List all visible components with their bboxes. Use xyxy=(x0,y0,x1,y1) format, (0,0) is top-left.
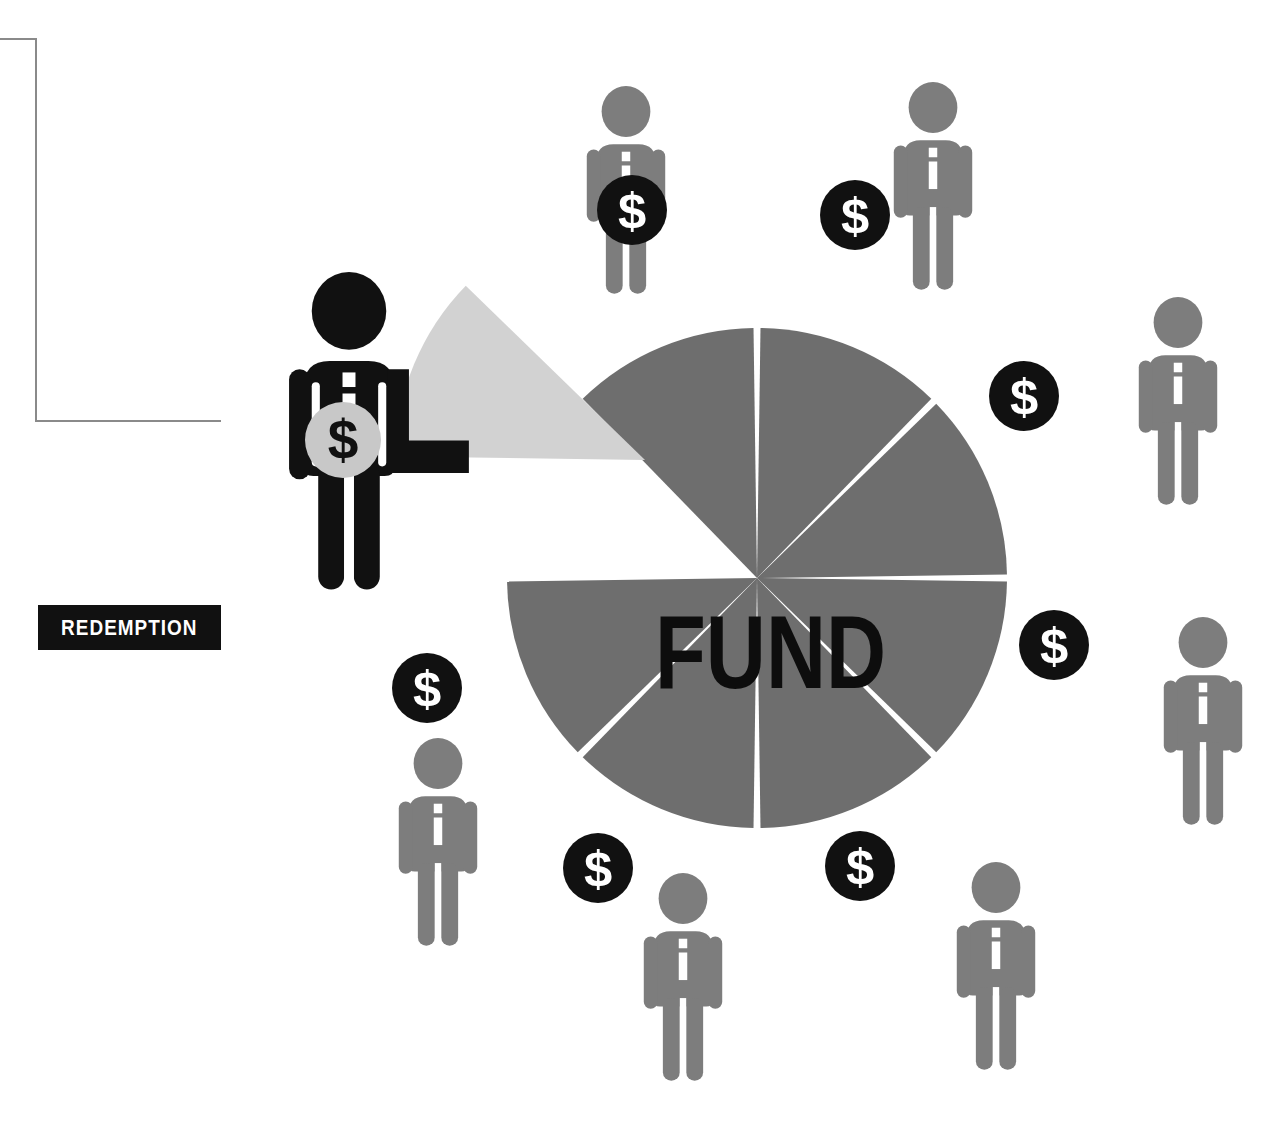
figure-leg-left xyxy=(976,987,993,1070)
figure-arm-left xyxy=(894,146,908,218)
infographic-canvas: $$$$$$$$ FUND REDEMPTION xyxy=(0,0,1261,1127)
figure-collar xyxy=(622,152,630,162)
figure-arm-right xyxy=(1228,681,1242,753)
figure-arm-left xyxy=(289,369,310,479)
figure-leg-right xyxy=(936,207,953,290)
coin-dollar-symbol: $ xyxy=(618,182,646,239)
figure-leg-right xyxy=(686,998,703,1081)
investor-top-right[interactable] xyxy=(894,82,972,290)
figure-leg-right xyxy=(999,987,1016,1070)
figure-tie xyxy=(1199,697,1207,725)
figure-tie xyxy=(929,162,937,190)
figure-collar xyxy=(1174,363,1182,373)
figure-tie xyxy=(679,953,687,981)
figure-leg-gap xyxy=(993,987,999,1070)
investor-right-upper[interactable] xyxy=(1139,297,1217,505)
figure-collar xyxy=(679,939,687,949)
investor-right-upper-coin[interactable]: $ xyxy=(989,361,1059,431)
figure-arm-right xyxy=(1021,926,1035,998)
investor-bottom-right-coin[interactable]: $ xyxy=(825,831,895,901)
figure-arm-right xyxy=(958,146,972,218)
figure-collar xyxy=(929,148,937,158)
figure-leg-gap xyxy=(1200,742,1206,825)
figure-head xyxy=(414,738,463,789)
figure-leg-right xyxy=(1181,422,1198,505)
figure-collar xyxy=(343,372,356,387)
figure-head xyxy=(909,82,958,133)
figure-leg-gap xyxy=(680,998,686,1081)
redemption-label-text: REDEMPTION xyxy=(61,615,197,641)
figure-collar xyxy=(992,928,1000,938)
figure-leg-left xyxy=(418,863,435,946)
pie-slice-exploded[interactable] xyxy=(395,286,645,460)
investor-right-lower-coin[interactable]: $ xyxy=(1019,610,1089,680)
figure-arm-left xyxy=(1164,681,1178,753)
figure-arm-left xyxy=(644,937,658,1009)
figure-head xyxy=(972,862,1021,913)
figure-tie xyxy=(1174,377,1182,405)
investor-top-left-coin[interactable]: $ xyxy=(597,175,667,245)
fund-diagram: $$$$$$$$ xyxy=(0,0,1261,1127)
figure-leg-gap xyxy=(1175,422,1181,505)
figure-leg-gap xyxy=(344,463,354,589)
investor-bottom-left-coin[interactable]: $ xyxy=(563,833,633,903)
figure-leg-gap xyxy=(930,207,936,290)
investor-top-right-coin[interactable]: $ xyxy=(820,180,890,250)
figure-head xyxy=(312,272,387,350)
figure-leg-right xyxy=(354,463,380,589)
coin-dollar-symbol: $ xyxy=(841,187,869,244)
figure-collar xyxy=(1199,683,1207,693)
figure-head xyxy=(1154,297,1203,348)
redemption-label: REDEMPTION xyxy=(38,605,221,650)
figure-arm-right xyxy=(1203,361,1217,433)
figure-leg-left xyxy=(1158,422,1175,505)
coin-dollar-symbol: $ xyxy=(1010,368,1038,425)
figure-head xyxy=(659,873,708,924)
figure-head xyxy=(1179,617,1228,668)
figure-leg-right xyxy=(1206,742,1223,825)
coin-dollar-symbol: $ xyxy=(846,838,874,895)
figure-arm-right xyxy=(463,802,477,874)
pie-chart xyxy=(395,286,1007,828)
redeeming-investor-coin[interactable]: $ xyxy=(305,402,381,478)
figure-leg-right xyxy=(441,863,458,946)
figure-leg-left xyxy=(1183,742,1200,825)
coin-dollar-symbol: $ xyxy=(413,660,441,717)
figure-collar xyxy=(434,804,442,814)
figure-tie xyxy=(992,942,1000,970)
coin-dollar-symbol: $ xyxy=(328,409,359,471)
figure-leg-gap xyxy=(435,863,441,946)
figure-arm-right xyxy=(708,937,722,1009)
investor-bottom-left[interactable] xyxy=(644,873,722,1081)
figure-leg-left xyxy=(913,207,930,290)
coin-dollar-symbol: $ xyxy=(584,840,612,897)
investor-right-lower[interactable] xyxy=(1164,617,1242,825)
investor-bottom-right[interactable] xyxy=(957,862,1035,1070)
figure-leg-left xyxy=(318,463,344,589)
coin-dollar-symbol: $ xyxy=(1040,617,1068,674)
figure-arm-left xyxy=(957,926,971,998)
figure-tie xyxy=(434,818,442,846)
figure-leg-left xyxy=(663,998,680,1081)
investor-left-lower[interactable] xyxy=(399,738,477,946)
figure-arm-slit-right xyxy=(378,382,386,466)
figure-arm-left xyxy=(399,802,413,874)
figure-arm-left xyxy=(1139,361,1153,433)
figure-head xyxy=(602,86,651,137)
investor-left-lower-coin[interactable]: $ xyxy=(392,653,462,723)
